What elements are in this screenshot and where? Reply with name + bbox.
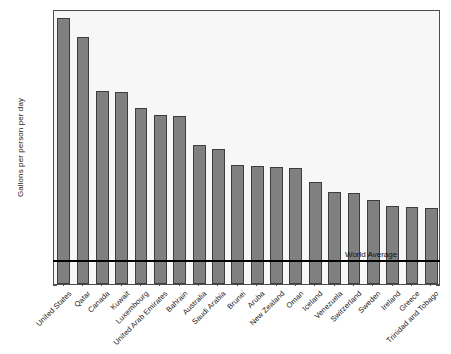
bar bbox=[96, 91, 109, 284]
bar bbox=[135, 108, 148, 284]
bar bbox=[115, 92, 128, 284]
bar-chart-figure: Gallons per person per day World Average… bbox=[0, 0, 451, 354]
bar bbox=[425, 208, 438, 284]
plot-area bbox=[53, 10, 440, 285]
bar bbox=[193, 145, 206, 284]
bar bbox=[289, 168, 302, 284]
world-average-line bbox=[53, 260, 440, 262]
bar bbox=[231, 165, 244, 284]
bar bbox=[154, 115, 167, 284]
bar bbox=[348, 193, 361, 284]
bar bbox=[270, 167, 283, 284]
bar bbox=[251, 166, 264, 284]
bar bbox=[386, 206, 399, 284]
bar bbox=[367, 200, 380, 284]
bar bbox=[77, 37, 90, 284]
bar bbox=[328, 192, 341, 284]
y-axis-title: Gallons per person per day bbox=[14, 10, 28, 285]
y-axis-tick-mark bbox=[53, 285, 57, 286]
bar bbox=[57, 18, 70, 284]
bar bbox=[173, 116, 186, 284]
bar bbox=[309, 182, 322, 284]
y-axis-tick-mark-right bbox=[436, 285, 440, 286]
bar bbox=[212, 149, 225, 284]
bar bbox=[406, 207, 419, 284]
world-average-label: World Average bbox=[345, 250, 397, 259]
